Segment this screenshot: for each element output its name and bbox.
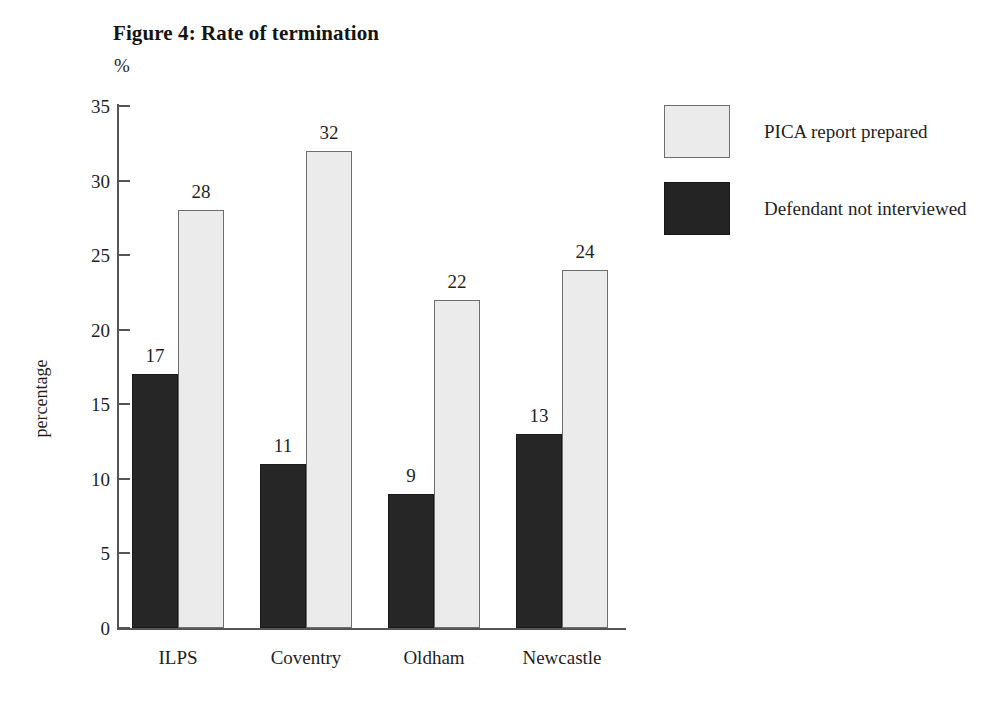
y-axis-tick-label: 0 — [54, 619, 110, 638]
bar-value-label: 28 — [166, 182, 236, 201]
bar — [388, 494, 434, 628]
figure-title: Figure 4: Rate of termination — [113, 21, 379, 46]
y-axis-tick — [119, 552, 130, 554]
bar-value-label: 32 — [294, 123, 364, 142]
y-axis-tick — [119, 403, 130, 405]
y-axis-tick-label: 5 — [54, 544, 110, 563]
bar-value-label: 22 — [422, 272, 492, 291]
y-axis-tick-label: 15 — [54, 395, 110, 414]
legend-item-label: Defendant not interviewed — [764, 198, 967, 220]
bar — [516, 434, 562, 628]
y-axis-tick — [119, 627, 130, 629]
bar — [306, 151, 352, 628]
bar — [132, 374, 178, 628]
x-axis-line — [117, 628, 626, 630]
x-axis-category-label: Coventry — [236, 648, 376, 667]
legend-swatch-light — [664, 105, 730, 158]
bar — [562, 270, 608, 628]
y-axis-tick — [119, 254, 130, 256]
bar — [260, 464, 306, 628]
x-axis-category-label: ILPS — [108, 648, 248, 667]
y-axis-tick — [119, 478, 130, 480]
x-axis-category-label: Oldham — [364, 648, 504, 667]
y-axis-tick-label: 20 — [54, 321, 110, 340]
bar — [434, 300, 480, 628]
y-axis-tick-label: 25 — [54, 246, 110, 265]
bar — [178, 210, 224, 628]
y-axis-tick-label: 10 — [54, 470, 110, 489]
y-axis-tick-label: 30 — [54, 172, 110, 191]
unit-label: % — [114, 55, 130, 77]
legend-swatch-dark — [664, 182, 730, 235]
bar-value-label: 24 — [550, 242, 620, 261]
y-axis-tick — [119, 105, 130, 107]
y-axis-line — [117, 104, 119, 630]
y-axis-tick — [119, 329, 130, 331]
y-axis-title: percentage — [31, 344, 52, 454]
x-axis-category-label: Newcastle — [492, 648, 632, 667]
legend-item[interactable]: PICA report prepared — [664, 105, 928, 158]
y-axis-tick — [119, 180, 130, 182]
y-axis-tick-label: 35 — [54, 97, 110, 116]
legend-item-label: PICA report prepared — [764, 121, 928, 143]
legend-item[interactable]: Defendant not interviewed — [664, 182, 967, 235]
